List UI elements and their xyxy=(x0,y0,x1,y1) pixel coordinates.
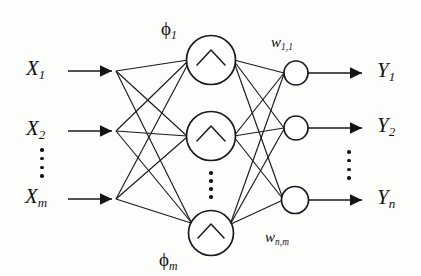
dot xyxy=(40,157,44,161)
dot xyxy=(209,187,213,191)
weight-label-first-subscript: 1,1 xyxy=(281,42,293,52)
output-node-1 xyxy=(284,61,308,85)
output-label-3-subscript: n xyxy=(389,196,396,211)
edge-xm-h3 xyxy=(116,199,191,223)
output-layer-ellipsis xyxy=(346,150,352,180)
edge-h2-y2 xyxy=(234,128,284,136)
weight-label-last-subscript: n,m xyxy=(275,237,289,247)
hidden-label-1: ϕ1 xyxy=(161,19,177,41)
dot xyxy=(347,150,351,154)
edge-x1-h2 xyxy=(116,71,187,136)
edge-xm-h1 xyxy=(116,62,189,199)
dot xyxy=(347,176,351,180)
edge-h3-y3 xyxy=(231,200,283,224)
dot xyxy=(40,166,44,170)
input-label-3: Xm xyxy=(25,186,47,209)
edge-x1-h1 xyxy=(116,60,188,71)
weight-label-last: wn,m xyxy=(265,230,289,247)
input-label-2: X2 xyxy=(26,118,45,141)
output-label-2-subscript: 2 xyxy=(389,124,396,139)
output-node-2 xyxy=(284,116,308,140)
output-label-2: Y2 xyxy=(377,115,395,138)
output-node-3 xyxy=(282,187,309,214)
hidden-label-m: ϕm xyxy=(159,250,178,272)
hidden-node-2 xyxy=(187,112,236,161)
input-arrows xyxy=(68,71,112,199)
edge-xm-h2 xyxy=(116,137,187,199)
output-label-1: Y1 xyxy=(377,60,395,83)
edge-h1-y3 xyxy=(234,62,283,199)
hidden-label-1-subscript: 1 xyxy=(171,29,177,42)
hidden-node-3 xyxy=(189,211,234,256)
input-label-1-subscript: 1 xyxy=(39,67,46,82)
output-nodes xyxy=(282,61,309,214)
input-label-3-subscript: m xyxy=(38,195,48,210)
input-label-2-subscript: 2 xyxy=(39,127,46,142)
hidden-to-output-edges xyxy=(231,60,284,224)
hidden-label-m-subscript: m xyxy=(169,260,178,273)
output-arrows xyxy=(308,73,362,200)
dot xyxy=(347,168,351,172)
dot xyxy=(209,195,213,199)
edge-h3-y1 xyxy=(231,74,284,222)
dot xyxy=(209,179,213,183)
dot xyxy=(209,171,213,175)
dot xyxy=(347,159,351,163)
hidden-nodes xyxy=(187,36,236,256)
input-to-hidden-edges xyxy=(116,60,191,223)
output-label-1-subscript: 1 xyxy=(389,69,396,84)
edge-x2-h1 xyxy=(116,61,188,131)
neural-network-figure: X1 X2 Xm ϕ1 ϕm w1,1 wn,m Y1 Y2 Yn xyxy=(0,0,421,276)
output-label-3: Yn xyxy=(377,187,395,210)
dot xyxy=(40,148,44,152)
hidden-layer-ellipsis xyxy=(208,171,214,199)
input-layer-ellipsis xyxy=(39,148,45,178)
edge-x2-h3 xyxy=(116,131,191,222)
input-label-1: X1 xyxy=(26,58,45,81)
weight-label-first: w1,1 xyxy=(271,35,293,52)
hidden-node-1 xyxy=(187,36,236,85)
dot xyxy=(40,174,44,178)
edge-x1-h3 xyxy=(116,71,191,222)
network-graphic xyxy=(0,0,421,276)
